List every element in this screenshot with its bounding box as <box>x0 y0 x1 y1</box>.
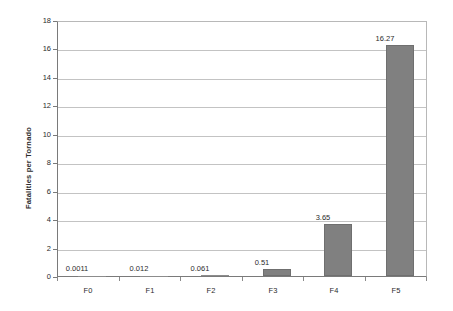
bar-chart-figure: Fatalities per Tornado 18 16 14 12 10 8 … <box>0 0 453 311</box>
bar-value-f1: 0.012 <box>108 264 170 273</box>
x-tick-mark-6 <box>426 277 427 281</box>
x-tick-mark-5 <box>365 277 366 281</box>
y-tick-label-18: 18 <box>25 17 51 25</box>
x-tick-mark-0 <box>57 277 58 281</box>
gridline-2 <box>58 250 426 251</box>
bar-f4[interactable] <box>324 224 352 276</box>
gridline-14 <box>58 79 426 80</box>
x-tick-mark-2 <box>180 277 181 281</box>
y-tick-label-12: 12 <box>25 102 51 110</box>
bar-value-f3: 0.51 <box>231 258 293 267</box>
x-cat-label-f5: F5 <box>365 286 427 295</box>
plot-area <box>57 21 427 277</box>
bar-value-f4: 3.65 <box>292 213 354 222</box>
x-cat-label-f2: F2 <box>180 286 242 295</box>
y-tick-label-8: 8 <box>25 159 51 167</box>
bar-f5[interactable] <box>386 45 414 276</box>
x-cat-label-f0: F0 <box>57 286 119 295</box>
bar-f1[interactable] <box>140 276 168 277</box>
gridline-8 <box>58 164 426 165</box>
y-tick-label-14: 14 <box>25 74 51 82</box>
gridline-10 <box>58 136 426 137</box>
x-tick-mark-1 <box>119 277 120 281</box>
bar-value-f2: 0.061 <box>169 264 231 273</box>
y-tick-label-2: 2 <box>25 245 51 253</box>
bar-value-f5: 16.27 <box>354 34 416 43</box>
y-tick-label-16: 16 <box>25 45 51 53</box>
x-tick-mark-4 <box>303 277 304 281</box>
y-tick-label-0: 0 <box>25 273 51 281</box>
x-cat-label-f4: F4 <box>303 286 365 295</box>
bar-value-f0: 0.0011 <box>46 264 108 273</box>
gridline-6 <box>58 193 426 194</box>
gridline-16 <box>58 50 426 51</box>
bar-f0[interactable] <box>78 276 106 277</box>
gridline-4 <box>58 221 426 222</box>
y-tick-label-4: 4 <box>25 216 51 224</box>
y-tick-label-10: 10 <box>25 131 51 139</box>
bar-f2[interactable] <box>201 275 229 276</box>
gridline-12 <box>58 107 426 108</box>
x-cat-label-f3: F3 <box>242 286 304 295</box>
x-cat-label-f1: F1 <box>119 286 181 295</box>
bar-f3[interactable] <box>263 269 291 276</box>
x-tick-mark-3 <box>242 277 243 281</box>
y-tick-label-6: 6 <box>25 188 51 196</box>
